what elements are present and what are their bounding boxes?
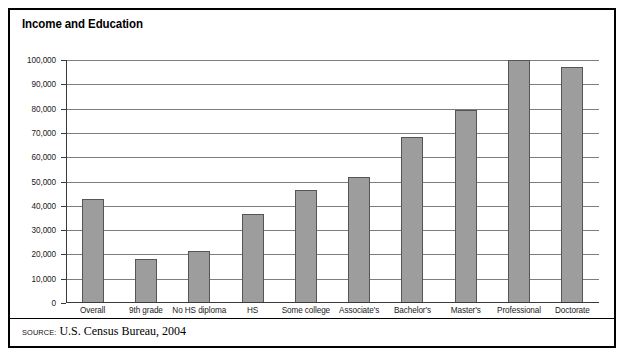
x-axis-label: Overall bbox=[80, 306, 105, 315]
page-title: Income and Education bbox=[22, 17, 143, 31]
y-axis-label: 90,000 bbox=[32, 80, 56, 89]
x-axis-label: HS bbox=[247, 306, 258, 315]
source-line: SOURCE: U.S. Census Bureau, 2004 bbox=[22, 324, 186, 339]
y-axis-label: 80,000 bbox=[32, 104, 56, 113]
y-axis-label: 0 bbox=[52, 299, 56, 308]
y-axis-label: 100,000 bbox=[27, 56, 56, 65]
x-axis-label: Doctorate bbox=[555, 306, 590, 315]
y-axis-label: 70,000 bbox=[32, 128, 56, 137]
y-axis-label: 60,000 bbox=[32, 153, 56, 162]
x-axis-label: Some college bbox=[282, 306, 330, 315]
source-text: U.S. Census Bureau, 2004 bbox=[59, 324, 186, 339]
y-axis-label: 50,000 bbox=[32, 177, 56, 186]
y-axis-label: 30,000 bbox=[32, 226, 56, 235]
x-axis-label: Associate's bbox=[339, 306, 379, 315]
y-axis-tick bbox=[61, 303, 66, 304]
y-axis-label: 20,000 bbox=[32, 250, 56, 259]
plot-frame bbox=[66, 60, 599, 303]
y-axis-label: 40,000 bbox=[32, 201, 56, 210]
y-axis-labels: 010,00020,00030,00040,00050,00060,00070,… bbox=[10, 60, 56, 303]
source-divider bbox=[10, 318, 614, 319]
x-axis-label: Bachelor's bbox=[394, 306, 431, 315]
y-axis-label: 10,000 bbox=[32, 274, 56, 283]
source-label: SOURCE: bbox=[22, 328, 56, 337]
figure-panel: Income and Education 010,00020,00030,000… bbox=[8, 8, 616, 348]
x-axis-label: No HS diploma bbox=[172, 306, 226, 315]
x-axis-label: 9th grade bbox=[129, 306, 163, 315]
x-axis-label: Master's bbox=[451, 306, 481, 315]
plot-area bbox=[66, 60, 599, 303]
x-axis-label: Professional bbox=[497, 306, 541, 315]
x-axis-labels: Overall9th gradeNo HS diplomaHSSome coll… bbox=[66, 306, 599, 322]
